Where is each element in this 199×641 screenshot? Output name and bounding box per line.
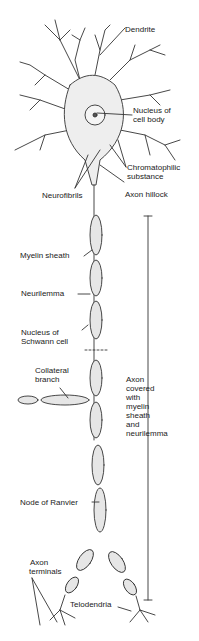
label-node-of-ranvier: Node of Ranvier bbox=[20, 498, 78, 507]
label-axon-covered-line: myelin bbox=[126, 402, 168, 411]
label-nucleus-cell-body-2: cell body bbox=[133, 115, 165, 124]
label-axon-hillock: Axon hillock bbox=[125, 190, 168, 199]
label-collateral-2: branch bbox=[35, 375, 59, 384]
label-nucleus-cell-body-1: Nucleus of bbox=[133, 106, 171, 115]
label-axon-covered-line: covered bbox=[126, 384, 168, 393]
label-collateral-1: Collateral bbox=[35, 366, 69, 375]
label-axon-covered: Axon covered with myelin sheath and neur… bbox=[126, 375, 168, 438]
label-axon-covered-line: sheath bbox=[126, 411, 168, 420]
label-chromatophilic-1: Chromatophilic bbox=[127, 163, 180, 172]
label-axon-covered-line: with bbox=[126, 393, 168, 402]
label-axon-covered-line: and bbox=[126, 420, 168, 429]
label-schwann-1: Nucleus of bbox=[21, 328, 59, 337]
label-axon-terminals-2: terminals bbox=[29, 567, 61, 576]
neuron-illustration bbox=[0, 0, 199, 641]
label-telodendria: Telodendria bbox=[70, 600, 111, 609]
label-neurilemma: Neurilemma bbox=[21, 289, 64, 298]
label-chromatophilic-2: substance bbox=[127, 172, 163, 181]
neuron-diagram: Dendrite Nucleus of cell body Chromatoph… bbox=[0, 0, 199, 641]
label-myelin-sheath: Myelin sheath bbox=[20, 251, 69, 260]
label-neurofibrils: Neurofibrils bbox=[42, 191, 82, 200]
label-axon-terminals-1: Axon bbox=[30, 558, 48, 567]
label-dendrite: Dendrite bbox=[125, 25, 155, 34]
label-schwann-2: Schwann cell bbox=[21, 337, 68, 346]
label-axon-covered-line: Axon bbox=[126, 375, 168, 384]
label-axon-covered-line: neurilemma bbox=[126, 429, 168, 438]
